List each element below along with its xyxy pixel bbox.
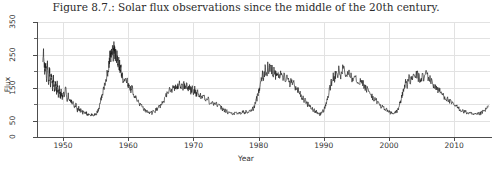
- series-line: [43, 42, 489, 116]
- x-axis-title: Year: [0, 154, 492, 163]
- figure-container: Figure 8.7.: Solar flux observations sin…: [0, 0, 492, 172]
- series-group: [43, 42, 489, 116]
- chart-canvas: [0, 0, 492, 172]
